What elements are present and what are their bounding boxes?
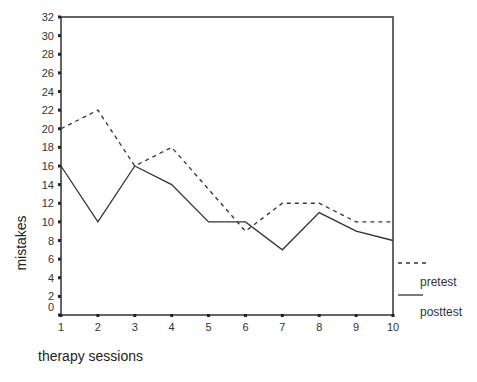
- y-tick: [58, 295, 61, 298]
- x-tick-label: 7: [279, 321, 285, 333]
- y-tick: [58, 53, 61, 56]
- y-tick: [58, 258, 61, 261]
- x-axis: 12345678910: [58, 314, 399, 333]
- x-tick-label: 6: [242, 321, 248, 333]
- x-tick-label: 8: [316, 321, 322, 333]
- y-tick-label: 14: [42, 179, 54, 191]
- y-tick: [58, 90, 61, 93]
- line-chart: 02468101214161820222426283032 1234567891…: [0, 0, 477, 382]
- y-tick-label: 4: [48, 272, 54, 284]
- legend: pretest posttest: [398, 263, 463, 319]
- y-tick-label: 8: [48, 235, 54, 247]
- y-tick-label: 12: [42, 197, 54, 209]
- x-tick: [318, 314, 321, 317]
- series-line-pretest: [61, 110, 393, 231]
- x-tick: [60, 314, 63, 317]
- series-line-posttest: [61, 166, 393, 250]
- y-tick: [58, 220, 61, 223]
- x-tick-label: 3: [132, 321, 138, 333]
- x-tick-label: 10: [387, 321, 399, 333]
- y-tick-label: 26: [42, 67, 54, 79]
- y-tick: [58, 109, 61, 112]
- y-tick: [58, 183, 61, 186]
- y-tick: [58, 276, 61, 279]
- x-tick-label: 9: [353, 321, 359, 333]
- y-tick-label: 24: [42, 86, 54, 98]
- x-tick: [133, 314, 136, 317]
- y-tick: [58, 239, 61, 242]
- y-tick: [58, 71, 61, 74]
- x-tick: [355, 314, 358, 317]
- x-tick: [244, 314, 247, 317]
- y-axis-title: mistakes: [13, 215, 29, 270]
- y-tick-label: 18: [42, 141, 54, 153]
- y-tick: [58, 34, 61, 37]
- y-tick-label: 6: [48, 253, 54, 265]
- x-axis-title: therapy sessions: [38, 348, 143, 364]
- x-tick: [207, 314, 210, 317]
- x-tick-label: 1: [58, 321, 64, 333]
- y-tick-label: 32: [42, 11, 54, 23]
- y-tick: [58, 16, 61, 19]
- x-tick-label: 5: [205, 321, 211, 333]
- y-tick-label: 22: [42, 104, 54, 116]
- y-tick-label: 28: [42, 48, 54, 60]
- y-axis: 02468101214161820222426283032: [42, 11, 61, 317]
- plot-frame: [61, 17, 393, 315]
- legend-posttest-label: posttest: [420, 305, 463, 319]
- y-tick: [58, 165, 61, 168]
- y-tick-label: 16: [42, 160, 54, 172]
- y-tick-label: 2: [48, 290, 54, 302]
- y-tick-label: 30: [42, 30, 54, 42]
- x-tick: [96, 314, 99, 317]
- x-tick: [281, 314, 284, 317]
- x-tick: [170, 314, 173, 317]
- y-tick-label: 20: [42, 123, 54, 135]
- legend-pretest-label: pretest: [420, 275, 457, 289]
- x-tick-label: 4: [169, 321, 175, 333]
- x-tick-label: 2: [95, 321, 101, 333]
- y-tick-label: 0: [48, 301, 54, 313]
- y-tick-label: 10: [42, 216, 54, 228]
- y-tick: [58, 202, 61, 205]
- y-tick: [58, 127, 61, 130]
- y-tick: [58, 146, 61, 149]
- series-layer: [61, 110, 393, 250]
- x-tick: [392, 314, 395, 317]
